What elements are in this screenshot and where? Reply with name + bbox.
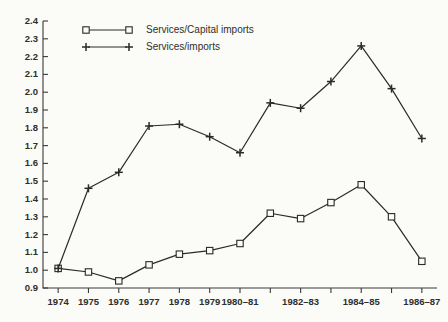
x-tick-label: 1974: [48, 296, 70, 307]
data-point-series-1: [419, 258, 425, 264]
legend-marker-plus-2: [125, 43, 133, 51]
y-tick-label: 2.2: [25, 51, 38, 62]
y-tick-label: 1.8: [25, 122, 38, 133]
x-tick-label: 1984–85: [343, 296, 381, 307]
data-point-series-2: [175, 120, 183, 128]
y-tick-label: 1.6: [25, 157, 38, 168]
y-tick-label: 2.0: [25, 86, 38, 97]
legend-marker-square-1: [126, 27, 132, 33]
series-line-1: [58, 185, 422, 281]
y-tick-label: 2.4: [25, 15, 39, 26]
chart-canvas: 2.42.32.22.12.01.91.81.71.61.51.41.31.21…: [0, 0, 448, 322]
y-tick-label: 1.1: [25, 246, 39, 257]
legend-label-1: Services/Capital imports: [146, 24, 254, 35]
y-tick-label: 1.5: [25, 175, 39, 186]
y-tick-label: 2.1: [25, 68, 39, 79]
data-point-series-2: [236, 149, 244, 157]
x-tick-label: 1978: [169, 296, 190, 307]
data-point-series-1: [388, 214, 394, 220]
data-point-series-2: [145, 122, 153, 130]
data-point-series-1: [267, 210, 273, 216]
y-tick-label: 1.7: [25, 140, 38, 151]
data-point-series-1: [85, 269, 91, 275]
y-tick-label: 1.2: [25, 229, 38, 240]
data-point-series-2: [206, 133, 214, 141]
data-point-series-2: [388, 85, 396, 93]
x-tick-label: 1979: [199, 296, 220, 307]
data-point-series-1: [116, 278, 122, 284]
y-tick-label: 1.3: [25, 211, 38, 222]
legend-marker-plus-2: [82, 43, 90, 51]
data-point-series-2: [266, 99, 274, 107]
data-point-series-2: [418, 134, 426, 142]
data-point-series-1: [237, 240, 243, 246]
data-point-series-1: [176, 251, 182, 257]
legend-marker-square-1: [83, 27, 89, 33]
data-point-series-1: [358, 182, 364, 188]
data-point-series-1: [297, 215, 303, 221]
x-tick-label: 1980–81: [222, 296, 260, 307]
series-line-2: [58, 46, 422, 269]
y-tick-label: 1.9: [25, 104, 38, 115]
x-tick-label: 1975: [78, 296, 100, 307]
data-point-series-2: [84, 184, 92, 192]
x-tick-label: 1986–87: [403, 296, 440, 307]
y-tick-label: 2.3: [25, 33, 38, 44]
legend-label-2: Services/imports: [146, 41, 220, 52]
y-tick-label: 0.9: [25, 282, 38, 293]
x-tick-label: 1976: [108, 296, 129, 307]
data-point-series-1: [206, 247, 212, 253]
data-point-series-1: [328, 199, 334, 205]
x-tick-label: 1977: [139, 296, 160, 307]
line-chart: 2.42.32.22.12.01.91.81.71.61.51.41.31.21…: [0, 0, 448, 322]
y-tick-label: 1.0: [25, 264, 38, 275]
x-tick-label: 1982–83: [282, 296, 319, 307]
data-point-series-1: [146, 262, 152, 268]
y-tick-label: 1.4: [25, 193, 39, 204]
data-point-series-2: [115, 168, 123, 176]
